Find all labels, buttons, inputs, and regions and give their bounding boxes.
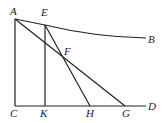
label-F: F [63, 45, 71, 57]
label-E: E [40, 6, 48, 18]
label-C: C [10, 107, 18, 119]
label-K: K [39, 107, 48, 119]
line-EH [45, 25, 90, 106]
line-AG [15, 19, 125, 106]
label-G: G [122, 107, 130, 119]
geometry-diagram: A E B F C K H G D [0, 0, 164, 123]
label-B: B [148, 33, 155, 45]
label-H: H [85, 107, 95, 119]
label-A: A [9, 5, 17, 17]
label-D: D [147, 100, 156, 112]
